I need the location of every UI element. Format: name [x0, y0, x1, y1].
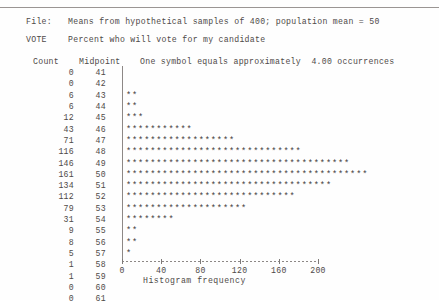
row-midpoint: 48 — [80, 147, 106, 156]
histogram-row: 557* — [0, 249, 439, 260]
histogram-row: 7953******************** — [0, 204, 439, 215]
row-bar: ******************** — [126, 204, 247, 214]
row-count: 161 — [26, 170, 74, 179]
row-count: 12 — [26, 113, 74, 122]
histogram-row: 14649***********************************… — [0, 159, 439, 170]
row-midpoint: 54 — [80, 215, 106, 224]
row-bar: ** — [126, 102, 138, 112]
row-midpoint: 45 — [80, 113, 106, 122]
histogram-row: 4346*********** — [0, 125, 439, 136]
row-count: 5 — [26, 249, 74, 258]
x-axis-tick — [279, 259, 280, 264]
row-midpoint: 43 — [80, 91, 106, 100]
row-midpoint: 51 — [80, 181, 106, 190]
x-axis-tick-label: 160 — [271, 266, 287, 275]
x-axis-tick-label: 200 — [310, 266, 326, 275]
column-header-midpoint: Midpoint — [79, 57, 121, 66]
row-count: 134 — [26, 181, 74, 190]
row-count: 116 — [26, 147, 74, 156]
row-midpoint: 52 — [80, 192, 106, 201]
row-bar: ******** — [126, 215, 174, 225]
row-count: 8 — [26, 238, 74, 247]
histogram-row: 061 — [0, 294, 439, 305]
row-midpoint: 53 — [80, 204, 106, 213]
file-value: Means from hypothetical samples of 400; … — [68, 17, 380, 26]
row-midpoint: 55 — [80, 226, 106, 235]
row-count: 9 — [26, 226, 74, 235]
row-bar: ****************** — [126, 136, 235, 146]
histogram-row: 955** — [0, 226, 439, 237]
file-label: File: — [26, 17, 52, 26]
row-midpoint: 42 — [80, 79, 106, 88]
row-midpoint: 44 — [80, 102, 106, 111]
row-bar: *********** — [126, 125, 193, 135]
histogram-row: 158 — [0, 260, 439, 271]
x-axis-tick — [122, 259, 123, 264]
row-midpoint: 60 — [80, 283, 106, 292]
x-axis-tick-label: 40 — [156, 266, 166, 275]
x-axis-tick-label: 120 — [232, 266, 248, 275]
row-midpoint: 41 — [80, 68, 106, 77]
row-count: 6 — [26, 102, 74, 111]
row-count: 1 — [26, 272, 74, 281]
histogram-row: 11252**************************** — [0, 192, 439, 203]
row-bar: ********************************** — [126, 181, 332, 191]
row-midpoint: 50 — [80, 170, 106, 179]
row-bar: *** — [126, 113, 144, 123]
histogram-rows: 041042643**644**1245***4346***********71… — [0, 68, 439, 305]
row-bar: ***************************** — [126, 147, 302, 157]
top-divider — [0, 7, 439, 8]
row-midpoint: 61 — [80, 294, 106, 303]
row-bar: **************************************** — [126, 170, 368, 180]
row-midpoint: 47 — [80, 136, 106, 145]
x-axis-title: Histogram frequency — [143, 276, 246, 285]
row-count: 0 — [26, 283, 74, 292]
row-count: 43 — [26, 125, 74, 134]
vote-label: VOTE — [26, 35, 47, 44]
column-header-count: Count — [33, 57, 59, 66]
row-bar: **************************** — [126, 192, 296, 202]
row-count: 6 — [26, 91, 74, 100]
row-midpoint: 56 — [80, 238, 106, 247]
row-count: 0 — [26, 68, 74, 77]
x-axis: 04080120160200 — [122, 261, 318, 262]
row-count: 1 — [26, 260, 74, 269]
x-axis-line — [122, 261, 318, 262]
row-bar: ** — [126, 238, 138, 248]
row-midpoint: 59 — [80, 272, 106, 281]
row-bar: ************************************* — [126, 159, 350, 169]
x-axis-tick-label: 80 — [195, 266, 205, 275]
row-count: 79 — [26, 204, 74, 213]
histogram-row: 041 — [0, 68, 439, 79]
histogram-row: 13451********************************** — [0, 181, 439, 192]
x-axis-tick — [240, 259, 241, 264]
histogram-row: 644** — [0, 102, 439, 113]
row-count: 31 — [26, 215, 74, 224]
histogram-row: 856** — [0, 238, 439, 249]
symbol-legend-note: One symbol equals approximately 4.00 occ… — [140, 57, 394, 66]
row-midpoint: 57 — [80, 249, 106, 258]
x-axis-tick — [200, 259, 201, 264]
x-axis-tick-label: 0 — [119, 266, 124, 275]
row-bar: * — [126, 249, 132, 259]
histogram-row: 3154******** — [0, 215, 439, 226]
histogram-row: 11648***************************** — [0, 147, 439, 158]
row-count: 71 — [26, 136, 74, 145]
row-bar: ** — [126, 226, 138, 236]
row-midpoint: 49 — [80, 159, 106, 168]
row-count: 0 — [26, 294, 74, 303]
histogram-row: 1245*** — [0, 113, 439, 124]
histogram-row: 042 — [0, 79, 439, 90]
row-count: 112 — [26, 192, 74, 201]
row-midpoint: 46 — [80, 125, 106, 134]
vote-value: Percent who will vote for my candidate — [68, 35, 265, 44]
histogram-row: 643** — [0, 91, 439, 102]
row-count: 0 — [26, 79, 74, 88]
x-axis-tick — [318, 259, 319, 264]
row-count: 146 — [26, 159, 74, 168]
histogram-row: 16150***********************************… — [0, 170, 439, 181]
row-midpoint: 58 — [80, 260, 106, 269]
x-axis-tick — [161, 259, 162, 264]
row-bar: ** — [126, 91, 138, 101]
